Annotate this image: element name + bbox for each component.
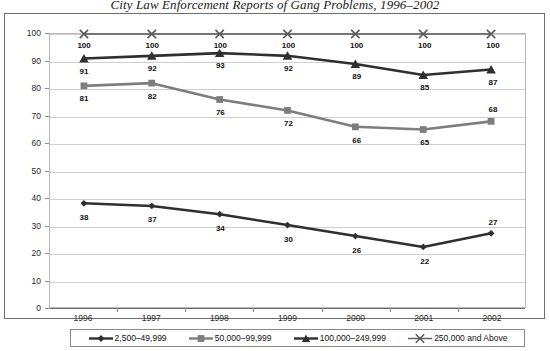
x-tick-label: 2000 bbox=[326, 313, 386, 323]
legend-entry[interactable]: 50,000–99,999 bbox=[188, 333, 272, 344]
y-tick-label: 50 bbox=[11, 166, 41, 176]
x-tick-mark bbox=[390, 308, 391, 312]
x-tick-mark bbox=[458, 308, 459, 312]
data-point-label: 68 bbox=[473, 105, 513, 114]
data-point-label: 27 bbox=[473, 218, 513, 227]
data-point-label: 38 bbox=[64, 213, 104, 222]
diamond-marker bbox=[81, 200, 88, 207]
y-tick-mark bbox=[45, 61, 49, 62]
data-point-label: 92 bbox=[269, 64, 309, 73]
x-tick-label: 1997 bbox=[121, 313, 181, 323]
gridline bbox=[50, 227, 525, 228]
diamond-marker bbox=[148, 203, 155, 210]
y-tick-label: 90 bbox=[11, 56, 41, 66]
gridline bbox=[50, 308, 525, 309]
x-tick-mark bbox=[322, 308, 323, 312]
gridline bbox=[50, 254, 525, 255]
square-marker bbox=[197, 335, 204, 342]
x-tick-mark bbox=[253, 308, 254, 312]
legend-label: 50,000–99,999 bbox=[215, 333, 272, 343]
diamond-marker bbox=[488, 230, 495, 237]
x-tick-mark bbox=[117, 308, 118, 312]
data-point-label: 82 bbox=[132, 92, 172, 101]
data-point-label: 76 bbox=[200, 108, 240, 117]
gridline bbox=[50, 89, 525, 90]
data-point-label: 72 bbox=[269, 119, 309, 128]
plot-area: 3837343026222781827672666568919293928985… bbox=[49, 33, 526, 308]
y-tick-mark bbox=[45, 171, 49, 172]
data-point-label: 100 bbox=[269, 41, 309, 50]
series-layer bbox=[50, 34, 525, 307]
y-tick-label: 0 bbox=[11, 303, 41, 313]
diamond-marker bbox=[97, 335, 104, 342]
square-marker bbox=[488, 118, 495, 125]
legend-x-icon bbox=[407, 333, 433, 344]
gridline bbox=[50, 144, 525, 145]
diamond-marker bbox=[352, 233, 359, 240]
x-tick-mark bbox=[185, 308, 186, 312]
diamond-marker bbox=[420, 244, 427, 251]
legend-entry[interactable]: 2,500–49,999 bbox=[88, 333, 167, 344]
data-point-label: 85 bbox=[405, 83, 445, 92]
data-point-label: 100 bbox=[200, 41, 240, 50]
legend-label: 250,000 and Above bbox=[434, 333, 507, 343]
legend-square-icon bbox=[188, 333, 214, 344]
data-point-label: 100 bbox=[132, 41, 172, 50]
y-tick-label: 60 bbox=[11, 138, 41, 148]
legend-label: 2,500–49,999 bbox=[115, 333, 167, 343]
chart-figure: City Law Enforcement Reports of Gang Pro… bbox=[0, 0, 550, 351]
diamond-marker bbox=[216, 211, 223, 218]
triangle-marker bbox=[283, 51, 293, 59]
y-tick-label: 20 bbox=[11, 248, 41, 258]
data-point-label: 100 bbox=[405, 41, 445, 50]
y-tick-label: 80 bbox=[11, 83, 41, 93]
data-point-label: 66 bbox=[337, 136, 377, 145]
y-tick-label: 40 bbox=[11, 193, 41, 203]
chart-legend: 2,500–49,99950,000–99,999100,000–249,999… bbox=[70, 329, 525, 347]
gridline bbox=[50, 34, 525, 35]
y-tick-mark bbox=[45, 143, 49, 144]
x-tick-label: 2002 bbox=[462, 313, 522, 323]
square-marker bbox=[148, 80, 155, 87]
x-tick-label: 1996 bbox=[53, 313, 113, 323]
gridline bbox=[50, 199, 525, 200]
gridline bbox=[50, 117, 525, 118]
legend-label: 100,000–249,999 bbox=[320, 333, 386, 343]
triangle-marker bbox=[418, 70, 428, 78]
chart-frame: Percent Reporting Gang Problems 38373430… bbox=[4, 13, 545, 319]
x-tick-label: 1998 bbox=[189, 313, 249, 323]
data-point-label: 22 bbox=[405, 257, 445, 266]
data-point-label: 37 bbox=[132, 215, 172, 224]
y-tick-label: 30 bbox=[11, 221, 41, 231]
y-tick-mark bbox=[45, 33, 49, 34]
y-tick-mark bbox=[45, 281, 49, 282]
data-point-label: 30 bbox=[269, 235, 309, 244]
y-tick-label: 70 bbox=[11, 111, 41, 121]
chart-title: City Law Enforcement Reports of Gang Pro… bbox=[0, 0, 550, 13]
y-tick-label: 100 bbox=[11, 28, 41, 38]
data-point-label: 65 bbox=[405, 138, 445, 147]
square-marker bbox=[352, 123, 359, 130]
data-point-label: 81 bbox=[64, 94, 104, 103]
legend-triangle-icon bbox=[293, 333, 319, 344]
data-point-label: 87 bbox=[473, 78, 513, 87]
legend-entry[interactable]: 250,000 and Above bbox=[407, 333, 507, 344]
data-point-label: 100 bbox=[473, 41, 513, 50]
legend-diamond-icon bbox=[88, 333, 114, 344]
legend-entry[interactable]: 100,000–249,999 bbox=[293, 333, 386, 344]
gridline bbox=[50, 62, 525, 63]
x-tick-label: 2001 bbox=[394, 313, 454, 323]
data-point-label: 100 bbox=[337, 41, 377, 50]
y-tick-mark bbox=[45, 253, 49, 254]
y-tick-mark bbox=[45, 308, 49, 309]
square-marker bbox=[216, 96, 223, 103]
data-point-label: 34 bbox=[200, 224, 240, 233]
gridline bbox=[50, 282, 525, 283]
triangle-marker bbox=[147, 51, 157, 59]
data-point-label: 93 bbox=[200, 61, 240, 70]
triangle-marker bbox=[486, 65, 496, 73]
gridline bbox=[50, 172, 525, 173]
square-marker bbox=[420, 126, 427, 133]
data-point-label: 26 bbox=[337, 246, 377, 255]
square-marker bbox=[284, 107, 291, 114]
